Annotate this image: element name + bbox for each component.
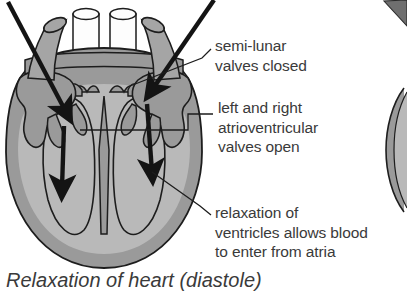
label-semi-lunar-valves: semi-lunar valves closed — [215, 36, 307, 75]
right-tube-opening — [110, 9, 136, 20]
label-line: left and right — [218, 98, 318, 118]
label-atrioventricular-valves: left and right atrioventricular valves o… — [218, 98, 318, 157]
adjacent-figure-fragment — [384, 0, 407, 212]
vessel-upper-left-opening — [42, 15, 69, 36]
arrow-into-right-ventricle — [62, 126, 64, 188]
vessel-upper-right-opening — [140, 15, 167, 36]
label-line: semi-lunar — [215, 36, 307, 56]
label-line: ventricles allows blood — [215, 223, 368, 243]
label-line: atrioventricular — [218, 118, 318, 138]
left-tube-opening — [73, 9, 99, 20]
label-line: relaxation of — [215, 203, 368, 223]
figure-caption: Relaxation of heart (diastole) — [6, 268, 262, 292]
label-line: valves open — [218, 137, 318, 157]
figure-page: semi-lunar valves closed left and right … — [0, 0, 407, 305]
label-ventricle-relaxation: relaxation of ventricles allows blood to… — [215, 203, 368, 262]
label-line: to enter from atria — [215, 242, 368, 262]
label-line: valves closed — [215, 56, 307, 76]
